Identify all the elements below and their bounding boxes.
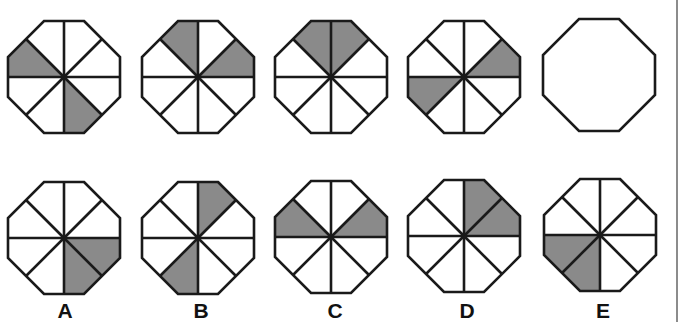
sequence-octagon-2	[142, 21, 254, 133]
option-label-c: C	[315, 300, 355, 322]
option-label-d: D	[447, 300, 487, 322]
sequence-octagon-3	[275, 21, 387, 133]
option-octagon-d	[408, 180, 520, 292]
sequence-octagon-4	[408, 21, 520, 133]
option-octagon-e	[544, 179, 656, 291]
sequence-octagon-1	[8, 21, 120, 133]
option-octagon-a	[8, 182, 120, 294]
option-label-e: E	[583, 300, 623, 322]
option-label-b: B	[181, 300, 221, 322]
option-octagon-b	[142, 182, 254, 294]
sequence-octagon-5	[543, 19, 655, 131]
octagon-figures	[0, 0, 682, 322]
option-label-a: A	[45, 300, 85, 322]
octagon-body	[543, 19, 655, 131]
option-octagon-c	[275, 181, 387, 293]
puzzle-stage: ABCDE	[0, 0, 682, 322]
right-edge-rule	[676, 0, 678, 322]
